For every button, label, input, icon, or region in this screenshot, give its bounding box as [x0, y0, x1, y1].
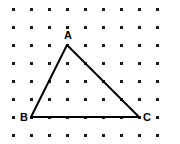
grid-dot — [120, 134, 123, 137]
grid-dot — [156, 134, 159, 137]
grid-dot — [30, 26, 33, 29]
grid-dot — [138, 98, 141, 101]
grid-dot — [30, 44, 33, 47]
grid-dot — [66, 80, 69, 83]
grid-dot — [12, 62, 15, 65]
grid-dot — [102, 26, 105, 29]
grid-dot — [156, 26, 159, 29]
grid-dot — [84, 44, 87, 47]
grid-dot — [120, 80, 123, 83]
grid-dot — [156, 98, 159, 101]
grid-dot — [66, 98, 69, 101]
grid-dot — [84, 8, 87, 11]
grid-dot — [156, 44, 159, 47]
grid-dot — [66, 62, 69, 65]
grid-dot — [84, 26, 87, 29]
grid-dot — [138, 26, 141, 29]
grid-dot — [102, 44, 105, 47]
grid-dot — [30, 80, 33, 83]
grid-dot — [102, 98, 105, 101]
grid-dot — [120, 62, 123, 65]
grid-dot — [12, 80, 15, 83]
vertex-label-b: B — [20, 111, 28, 123]
grid-dot — [12, 134, 15, 137]
grid-dot — [48, 62, 51, 65]
grid-dot — [30, 8, 33, 11]
vertex-label-c: C — [143, 111, 151, 123]
grid-dot — [30, 134, 33, 137]
grid-dot — [12, 8, 15, 11]
grid-dot — [102, 134, 105, 137]
geometry-figure: ABC — [0, 0, 180, 144]
grid-dot — [138, 8, 141, 11]
grid-dot — [48, 44, 51, 47]
grid-dot — [138, 62, 141, 65]
grid-dot — [120, 26, 123, 29]
grid-dot — [66, 134, 69, 137]
grid-dot — [84, 98, 87, 101]
grid-dot — [12, 26, 15, 29]
grid-dot — [84, 134, 87, 137]
grid-dot — [66, 8, 69, 11]
grid-dot — [138, 80, 141, 83]
grid-dot — [156, 116, 159, 119]
grid-dot — [12, 44, 15, 47]
grid-dot — [48, 98, 51, 101]
grid-dot — [120, 44, 123, 47]
grid-dot — [12, 116, 15, 119]
grid-dot — [138, 44, 141, 47]
grid-dot — [30, 62, 33, 65]
grid-dot — [156, 80, 159, 83]
grid-dot — [84, 80, 87, 83]
grid-dot — [120, 8, 123, 11]
grid-dot — [12, 98, 15, 101]
grid-dot — [156, 62, 159, 65]
vertex-label-a: A — [64, 29, 72, 41]
grid-dot — [30, 98, 33, 101]
grid-dot — [102, 8, 105, 11]
grid-dot — [102, 62, 105, 65]
grid-dot — [48, 134, 51, 137]
grid-dot — [48, 26, 51, 29]
grid-dot — [138, 134, 141, 137]
grid-dot — [48, 8, 51, 11]
grid-dot — [156, 8, 159, 11]
figure-canvas: ABC — [0, 0, 180, 144]
